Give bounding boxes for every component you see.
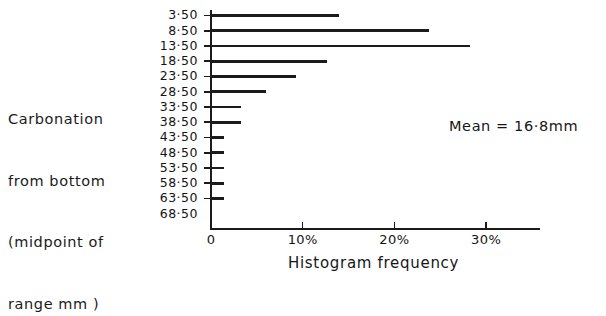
x-axis-tick-mark <box>394 222 396 229</box>
bar <box>211 197 224 200</box>
x-axis-tick-mark <box>485 222 487 229</box>
bar <box>211 167 224 170</box>
x-axis-tick-mark <box>302 222 304 229</box>
bar <box>211 75 296 78</box>
y-axis-tick-label: 8·50 <box>138 25 198 38</box>
y-axis-tick-label: 3·50 <box>138 9 198 22</box>
y-axis-tick-label: 43·50 <box>138 131 198 144</box>
bar <box>211 29 429 32</box>
y-axis-caption-line-4: range mm ) <box>8 294 158 315</box>
x-axis-title: Histogram frequency <box>288 254 459 272</box>
y-axis-tick-label: 48·50 <box>138 147 198 160</box>
x-axis-tick-label: 20% <box>379 232 409 247</box>
y-axis-tick-label: 58·50 <box>138 177 198 190</box>
x-axis-tick-label: 10% <box>288 232 318 247</box>
bar <box>211 45 470 48</box>
y-axis-line <box>210 10 212 229</box>
bar <box>211 60 327 63</box>
y-axis-tick-label: 23·50 <box>138 70 198 83</box>
mean-annotation: Mean = 16·8mm <box>449 118 578 134</box>
y-axis-tick-label: 53·50 <box>138 162 198 175</box>
y-axis-tick-label: 28·50 <box>138 86 198 99</box>
bar <box>211 151 224 154</box>
x-axis-tick-label: 30% <box>471 232 501 247</box>
bar <box>211 121 241 124</box>
y-axis-tick-label: 63·50 <box>138 192 198 205</box>
y-axis-tick-label: 38·50 <box>138 116 198 129</box>
x-axis-tick-label: 0 <box>207 232 216 247</box>
bar <box>211 106 241 109</box>
y-axis-tick-label: 13·50 <box>138 40 198 53</box>
bar <box>211 182 224 185</box>
bar <box>211 136 224 139</box>
y-axis-tick-label: 18·50 <box>138 55 198 68</box>
bar <box>211 90 266 93</box>
bar <box>211 14 339 17</box>
y-axis-tick-label: 33·50 <box>138 101 198 114</box>
y-axis-tick-label: 68·50 <box>138 208 198 221</box>
x-axis-line <box>210 228 540 230</box>
